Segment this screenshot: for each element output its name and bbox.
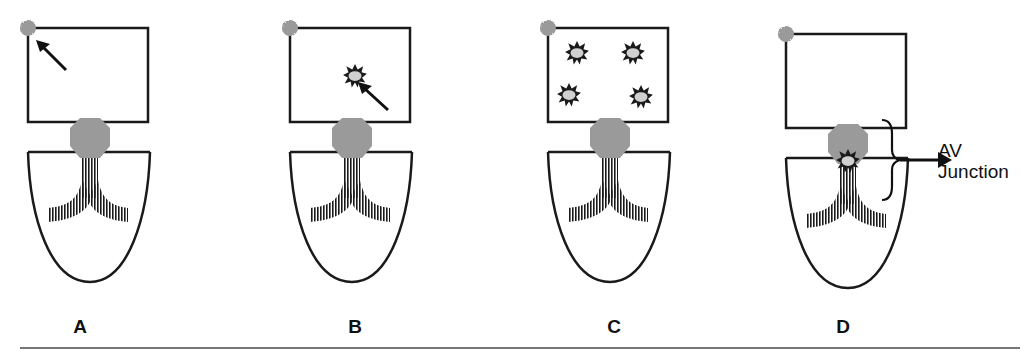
arrow-icon xyxy=(364,88,388,110)
brace-icon xyxy=(882,120,900,200)
panel-d xyxy=(778,26,952,288)
panel-label-b: B xyxy=(348,316,362,337)
panel-b xyxy=(282,20,412,282)
panel-label-d: D xyxy=(836,316,850,337)
cardiac-rhythm-diagram: A B C AV Junction D xyxy=(0,0,1025,355)
ectopic-focus-icon xyxy=(565,41,589,64)
annotation-av: AV xyxy=(938,140,962,161)
annotation-junction: Junction xyxy=(938,161,1009,182)
panel-c xyxy=(540,20,670,282)
panel-label-c: C xyxy=(607,316,621,337)
arrow-icon xyxy=(42,46,66,70)
ectopic-focus-icon xyxy=(557,83,581,106)
ectopic-focus-icon xyxy=(621,41,645,64)
panel-a xyxy=(20,20,150,282)
ectopic-focus-icon xyxy=(629,85,653,108)
panel-label-a: A xyxy=(73,316,87,337)
